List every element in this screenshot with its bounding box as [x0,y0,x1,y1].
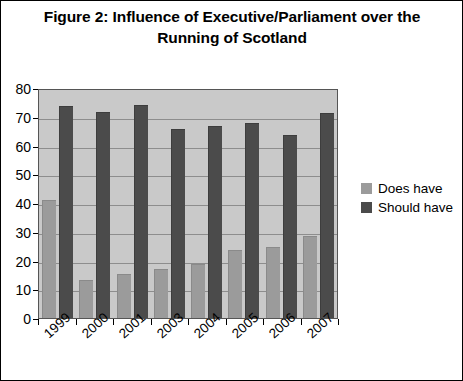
bar-does-have-2003 [154,269,168,318]
legend-item: Should have [361,200,453,215]
bar-group-2003 [151,90,188,318]
figure-title: Figure 2: Influence of Executive/Parliam… [17,7,447,49]
bar-should-have-2001 [134,105,148,318]
legend-label: Should have [378,200,453,215]
legend-item: Does have [361,181,453,196]
x-axis-tick-mark [151,319,152,325]
plot-area [38,89,338,319]
bar-group-2001 [114,90,151,318]
x-axis-tick-mark [301,319,302,325]
bar-should-have-2007 [320,113,334,318]
x-axis-tick-mark [38,319,39,325]
chart-legend: Does haveShould have [361,181,453,215]
bar-group-1999 [39,90,76,318]
x-axis-tick-mark [226,319,227,325]
bar-should-have-2006 [283,135,297,318]
x-axis-tick-mark [76,319,77,325]
bar-should-have-2000 [96,112,110,318]
bar-does-have-2001 [117,274,131,318]
bar-does-have-2005 [228,250,242,318]
bar-should-have-2003 [171,129,185,318]
figure-container: Figure 2: Influence of Executive/Parliam… [0,0,463,381]
bar-group-2004 [188,90,225,318]
bar-group-2007 [300,90,337,318]
bars-layer [39,90,337,318]
bar-group-2005 [225,90,262,318]
x-axis-tick-mark [188,319,189,325]
bar-does-have-2007 [303,236,317,318]
bar-does-have-2000 [79,280,93,318]
bar-does-have-2004 [191,264,205,318]
bar-does-have-1999 [42,200,56,318]
legend-label: Does have [378,181,443,196]
y-axis-tick-group [1,89,38,319]
x-axis-tick-mark [338,319,339,325]
figure-title-line-1: Figure 2: Influence of Executive/Parliam… [44,8,393,25]
bar-should-have-2005 [245,123,259,318]
bar-group-2000 [76,90,113,318]
x-axis-tick-mark [263,319,264,325]
x-axis-tick-mark [113,319,114,325]
bar-should-have-2004 [208,126,222,318]
bar-should-have-1999 [59,106,73,318]
legend-swatch-does-have [361,183,372,194]
bar-does-have-2006 [266,247,280,318]
bar-group-2006 [263,90,300,318]
legend-swatch-should-have [361,202,372,213]
x-axis-label-group: 19992000200120032004200520062007 [38,326,338,376]
